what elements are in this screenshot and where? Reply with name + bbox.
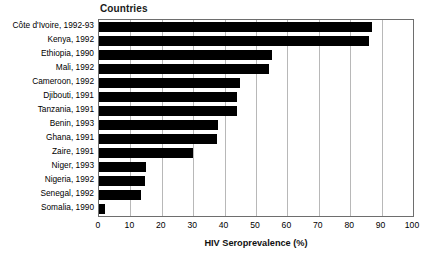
bar[interactable] (99, 64, 269, 73)
bar-row[interactable] (99, 160, 413, 174)
x-axis-title: HIV Seroprevalence (%) (98, 238, 414, 248)
category-label: Benin, 1993 (0, 119, 94, 128)
bar-row[interactable] (99, 48, 413, 62)
bar[interactable] (99, 148, 193, 157)
x-tick-label: 40 (219, 220, 229, 230)
bar[interactable] (99, 204, 105, 213)
plot-title: Countries (100, 3, 148, 14)
bar[interactable] (99, 36, 369, 45)
hiv-seroprevalence-bar-chart: Countries Côte d'Ivoire, 1992-93Kenya, 1… (0, 0, 435, 270)
bar[interactable] (99, 176, 145, 185)
bar[interactable] (99, 22, 372, 31)
bar[interactable] (99, 134, 217, 143)
category-label: Senegal, 1992 (0, 189, 94, 198)
category-label: Zaire, 1991 (0, 147, 94, 156)
category-label: Tanzania, 1991 (0, 105, 94, 114)
x-tick-label: 0 (96, 220, 101, 230)
x-tick-label: 50 (250, 220, 260, 230)
category-label: Djibouti, 1991 (0, 91, 94, 100)
bar-row[interactable] (99, 20, 413, 34)
category-label: Nigeria, 1992 (0, 175, 94, 184)
bars-layer (99, 20, 413, 216)
x-tick-label: 20 (156, 220, 166, 230)
x-tick-label: 80 (344, 220, 354, 230)
category-label: Côte d'Ivoire, 1992-93 (0, 21, 94, 30)
bar-row[interactable] (99, 174, 413, 188)
x-tick-label: 70 (313, 220, 323, 230)
bar[interactable] (99, 120, 218, 129)
bar-row[interactable] (99, 188, 413, 202)
category-label: Mali, 1992 (0, 63, 94, 72)
category-label: Ghana, 1991 (0, 133, 94, 142)
bar-row[interactable] (99, 132, 413, 146)
category-label: Cameroon, 1992 (0, 77, 94, 86)
bar-row[interactable] (99, 62, 413, 76)
category-label: Niger, 1993 (0, 161, 94, 170)
bar[interactable] (99, 50, 272, 59)
bar-row[interactable] (99, 202, 413, 216)
bar[interactable] (99, 190, 141, 199)
x-tick-label: 90 (376, 220, 386, 230)
x-tick-label: 30 (187, 220, 197, 230)
bar[interactable] (99, 78, 240, 87)
plot-area (98, 19, 414, 217)
category-label: Somalia, 1990 (0, 203, 94, 212)
bar[interactable] (99, 92, 237, 101)
x-tick-label: 100 (405, 220, 419, 230)
x-tick-label: 60 (282, 220, 292, 230)
category-label: Ethiopia, 1990 (0, 49, 94, 58)
x-axis-tick-labels: 0102030405060708090100 (98, 220, 414, 234)
category-label: Kenya, 1992 (0, 35, 94, 44)
bar-row[interactable] (99, 146, 413, 160)
bar-row[interactable] (99, 76, 413, 90)
bar[interactable] (99, 162, 146, 171)
bar-row[interactable] (99, 104, 413, 118)
bar-row[interactable] (99, 118, 413, 132)
bar[interactable] (99, 106, 237, 115)
bar-row[interactable] (99, 90, 413, 104)
category-axis-labels: Côte d'Ivoire, 1992-93Kenya, 1992Ethiopi… (0, 19, 94, 217)
bar-row[interactable] (99, 34, 413, 48)
x-tick-label: 10 (125, 220, 135, 230)
